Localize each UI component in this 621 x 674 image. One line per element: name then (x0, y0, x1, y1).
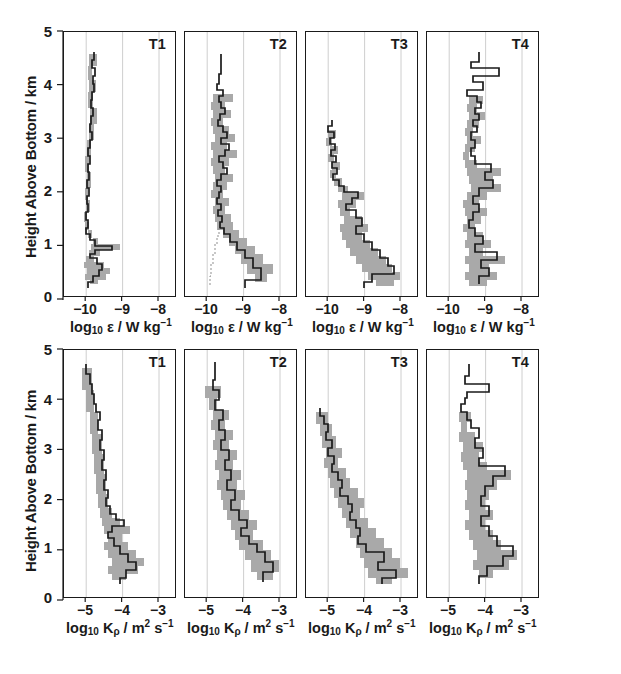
panel-epsilon-T3[interactable]: T3 (305, 31, 418, 297)
y-tick-1: 1 (36, 235, 52, 252)
x-axis-label-kappa-T1: log10 Kρ / m2 s−1 (66, 618, 174, 637)
x-tick-kappa-T1-n3: −3 (143, 602, 173, 618)
y-tick-4: 4 (36, 76, 52, 93)
x-tick-eps-T3-n10: −10 (312, 301, 342, 317)
y-tick-3: 3 (36, 129, 52, 146)
panel-kappa-T4[interactable]: T4 (426, 349, 539, 598)
y-tick-k-1: 1 (36, 539, 52, 556)
panel-epsilon-T2[interactable]: T2 (184, 31, 297, 297)
x-tick-kappa-T3-n3: −3 (385, 602, 415, 618)
x-tick-kappa-T2-n4: −4 (228, 602, 258, 618)
x-tick-eps-T1-n9: −9 (107, 301, 137, 317)
x-tick-eps-T3-n9: −9 (349, 301, 379, 317)
x-tick-kappa-T2-n5: −5 (191, 602, 221, 618)
panel-title-kappa-T3: T3 (391, 354, 408, 370)
x-tick-kappa-T4-n4: −4 (470, 602, 500, 618)
y-tick-0: 0 (36, 288, 52, 305)
figure-panel-grid: Height Above Bottom / km 5 4 3 2 1 0 (0, 0, 621, 674)
panel-title-epsilon-T1: T1 (149, 36, 166, 52)
x-tick-eps-T1-n8: −8 (143, 301, 173, 317)
x-tick-kappa-T1-n4: −4 (107, 602, 137, 618)
y-tick-k-5: 5 (36, 341, 52, 358)
x-tick-eps-T4-n10: −10 (433, 301, 463, 317)
x-axis-label-eps-T3: log10 ε / W kg−1 (312, 317, 414, 336)
y-tick-k-2: 2 (36, 490, 52, 507)
panel-kappa-T2[interactable]: T2 (184, 349, 297, 598)
panel-kappa-T1[interactable]: T1 (63, 349, 176, 598)
x-axis-label-eps-T1: log10 ε / W kg−1 (70, 317, 172, 336)
x-axis-label-kappa-T2: log10 Kρ / m2 s−1 (187, 618, 295, 637)
y-axis-label-epsilon: Height Above Bottom / km (22, 76, 39, 258)
x-tick-kappa-T2-n3: −3 (264, 602, 294, 618)
x-tick-eps-T4-n9: −9 (470, 301, 500, 317)
x-tick-eps-T2-n8: −8 (264, 301, 294, 317)
x-axis-label-kappa-T3: log10 Kρ / m2 s−1 (308, 618, 416, 637)
panel-title-epsilon-T3: T3 (391, 36, 408, 52)
panel-title-kappa-T2: T2 (270, 354, 287, 370)
x-tick-kappa-T1-n5: −5 (70, 602, 100, 618)
x-tick-eps-T2-n10: −10 (191, 301, 221, 317)
panel-title-kappa-T1: T1 (149, 354, 166, 370)
x-tick-kappa-T3-n5: −5 (312, 602, 342, 618)
x-axis-label-eps-T4: log10 ε / W kg−1 (433, 317, 535, 336)
panel-epsilon-T4[interactable]: T4 (426, 31, 539, 297)
y-tick-k-4: 4 (36, 391, 52, 408)
panel-title-kappa-T4: T4 (512, 354, 529, 370)
panel-epsilon-T1[interactable]: T1 (63, 31, 176, 297)
x-tick-eps-T3-n8: −8 (385, 301, 415, 317)
y-tick-2: 2 (36, 182, 52, 199)
x-tick-eps-T4-n8: −8 (506, 301, 536, 317)
x-axis-label-eps-T2: log10 ε / W kg−1 (191, 317, 293, 336)
x-axis-label-kappa-T4: log10 Kρ / m2 s−1 (429, 618, 537, 637)
y-tick-k-0: 0 (36, 589, 52, 606)
panel-title-epsilon-T4: T4 (512, 36, 529, 52)
x-tick-kappa-T3-n4: −4 (349, 602, 379, 618)
y-tick-5: 5 (36, 23, 52, 40)
panel-kappa-T3[interactable]: T3 (305, 349, 418, 598)
x-tick-eps-T1-n10: −10 (70, 301, 100, 317)
panel-title-epsilon-T2: T2 (270, 36, 287, 52)
x-tick-eps-T2-n9: −9 (228, 301, 258, 317)
x-tick-kappa-T4-n5: −5 (433, 602, 463, 618)
x-tick-kappa-T4-n3: −3 (506, 602, 536, 618)
y-tick-k-3: 3 (36, 440, 52, 457)
